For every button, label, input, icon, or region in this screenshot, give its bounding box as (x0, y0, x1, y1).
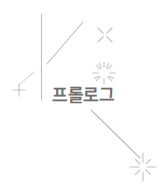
sparkle-x-top-right (98, 28, 112, 42)
page-title: 프롤로그 (52, 81, 108, 111)
diagonal-line-left-accent (18, 72, 34, 86)
diagonal-line-upper (47, 22, 83, 64)
sparkle-plus-left (13, 84, 25, 96)
diagonal-line-lower (91, 110, 140, 158)
prologue-artwork-canvas: 프롤로그 (0, 0, 168, 196)
sparkle-star-bottom-right (130, 153, 156, 181)
